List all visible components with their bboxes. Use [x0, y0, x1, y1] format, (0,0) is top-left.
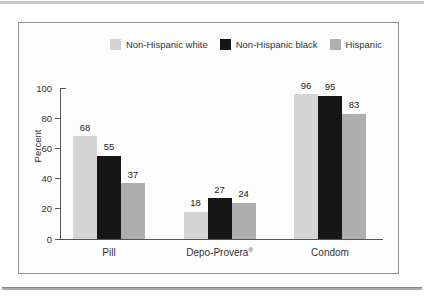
y-axis-tick — [55, 178, 61, 179]
chart-frame: Non-Hispanic white Non-Hispanic black Hi… — [18, 22, 399, 274]
top-rule — [0, 1, 424, 4]
legend-label: Hispanic — [346, 39, 382, 50]
bar-value-label: 18 — [190, 198, 201, 208]
bar-rect — [184, 212, 208, 239]
legend-label: Non-Hispanic black — [236, 39, 318, 50]
legend: Non-Hispanic white Non-Hispanic black Hi… — [19, 39, 382, 50]
bar-rect — [208, 198, 232, 239]
bar: 68 — [73, 88, 97, 239]
legend-label: Non-Hispanic white — [126, 39, 208, 50]
registered-mark: ® — [248, 247, 252, 253]
bar-group-depo-provera: 182724Depo-Provera® — [184, 88, 256, 239]
legend-item-non-hispanic-black: Non-Hispanic black — [220, 39, 318, 50]
legend-swatch-icon — [110, 39, 121, 50]
bar-value-label: 37 — [128, 170, 139, 180]
bar-value-label: 68 — [80, 123, 91, 133]
legend-swatch-icon — [330, 39, 341, 50]
y-axis-tick — [55, 208, 61, 209]
y-axis-tick-label: 80 — [41, 113, 52, 123]
bar-rect — [97, 156, 121, 239]
y-axis-tick — [55, 239, 61, 240]
y-axis-tick-label: 0 — [47, 234, 52, 244]
legend-item-non-hispanic-white: Non-Hispanic white — [110, 39, 208, 50]
bar-rect — [318, 96, 342, 239]
bar-group-pill: 685537Pill — [73, 88, 145, 239]
y-axis-tick — [55, 118, 61, 119]
bar: 95 — [318, 88, 342, 239]
bar: 27 — [208, 88, 232, 239]
y-axis-tick — [61, 88, 66, 89]
bar: 24 — [232, 88, 256, 239]
y-axis-tick-label: 40 — [41, 174, 52, 184]
plot-area: Percent 020406080100685537Pill182724Depo… — [60, 88, 383, 240]
bar-rect — [73, 136, 97, 239]
legend-item-hispanic: Hispanic — [330, 39, 382, 50]
bar-value-label: 96 — [301, 81, 312, 91]
bottom-rule — [2, 287, 422, 290]
bar: 83 — [342, 88, 366, 239]
bar-group-condom: 969583Condom — [294, 88, 366, 239]
y-axis-tick — [55, 148, 61, 149]
bar: 55 — [97, 88, 121, 239]
bar-rect — [294, 94, 318, 239]
y-axis-tick-label: 60 — [41, 144, 52, 154]
bar-value-label: 83 — [349, 100, 360, 110]
bar: 37 — [121, 88, 145, 239]
y-axis-tick-label: 100 — [36, 83, 52, 93]
bar-rect — [342, 114, 366, 239]
bar-value-label: 27 — [214, 185, 225, 195]
bar: 18 — [184, 88, 208, 239]
legend-swatch-icon — [220, 39, 231, 50]
bar-value-label: 95 — [325, 82, 336, 92]
category-label: Depo-Provera® — [186, 247, 253, 258]
category-label: Pill — [102, 247, 115, 258]
category-label: Condom — [311, 247, 349, 258]
figure-canvas: Non-Hispanic white Non-Hispanic black Hi… — [0, 0, 424, 299]
bar: 96 — [294, 88, 318, 239]
bar-value-label: 24 — [238, 189, 249, 199]
bar-rect — [121, 183, 145, 239]
bar-rect — [232, 203, 256, 239]
bar-value-label: 55 — [104, 142, 115, 152]
y-axis-tick-label: 20 — [41, 204, 52, 214]
